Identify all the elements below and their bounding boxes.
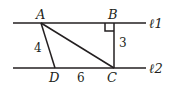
point-label-d: D xyxy=(48,70,60,85)
right-angle-marker xyxy=(105,23,114,31)
point-label-b: B xyxy=(107,7,118,22)
point-label-a: A xyxy=(35,7,45,22)
line-label-l2: ℓ2 xyxy=(149,61,163,76)
point-label-c: C xyxy=(107,70,117,85)
line-label-l1: ℓ1 xyxy=(149,16,163,31)
measure-bc: 3 xyxy=(119,36,127,50)
geometry-diagram: A B C D 4 3 6 ℓ1 ℓ2 xyxy=(0,0,175,85)
measure-ad: 4 xyxy=(34,41,42,55)
measure-dc: 6 xyxy=(77,71,85,85)
segment-ac xyxy=(41,23,114,68)
